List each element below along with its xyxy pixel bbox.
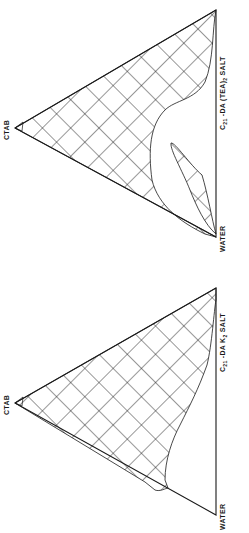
salt-mid: -DA (TEA) [219, 81, 226, 119]
salt-suffix: SALT [219, 313, 226, 334]
hatched-region-lens [171, 143, 216, 234]
salt-sub2: 2 [222, 78, 228, 81]
salt-mid: -DA K [219, 338, 226, 361]
salt-prefix: C [219, 125, 226, 130]
label-water-bottom: WATER [219, 504, 226, 530]
salt-sub1: 21 [222, 118, 228, 124]
label-ctab-top: CTAB [3, 120, 10, 140]
hatched-region-main [15, 288, 216, 491]
salt-sub2: 2 [222, 334, 228, 337]
label-salt-bottom: C21 -DA K2 SALT [219, 313, 228, 372]
label-salt-top: C21 -DA (TEA)2 SALT [219, 56, 228, 130]
diagram-top [15, 10, 216, 237]
hatched-region-main [15, 10, 216, 237]
label-ctab-bottom: CTAB [3, 395, 10, 415]
salt-prefix: C [219, 367, 226, 372]
salt-sub1: 21 [222, 360, 228, 366]
phase-diagrams [0, 0, 249, 533]
salt-suffix: SALT [219, 56, 226, 77]
label-water-top: WATER [219, 226, 226, 252]
diagram-bottom [15, 288, 216, 515]
